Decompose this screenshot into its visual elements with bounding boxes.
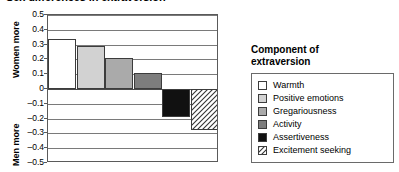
legend: Component of extraversion WarmthPositive…: [251, 44, 394, 163]
legend-item: Activity: [258, 118, 387, 131]
y-axis-tick-label: 0.4: [4, 25, 44, 34]
gridline: [48, 148, 217, 149]
legend-swatch-icon: [258, 107, 267, 116]
y-axis: 0.50.40.30.20.10–0.1–0.2–0.3–0.4–0.5: [0, 14, 44, 162]
legend-swatch-icon: [258, 94, 267, 103]
bar: [48, 39, 76, 89]
y-axis-tick-label: 0.1: [4, 69, 44, 78]
legend-item: Excitement seeking: [258, 144, 387, 157]
y-axis-tick-mark: [44, 162, 47, 163]
legend-item: Warmth: [258, 79, 387, 92]
bar: [105, 58, 133, 89]
legend-item: Assertiveness: [258, 131, 387, 144]
legend-item-label: Activity: [273, 120, 302, 129]
legend-item-label: Positive emotions: [273, 94, 344, 103]
y-axis-tick-label: 0.3: [4, 40, 44, 49]
legend-item-label: Assertiveness: [273, 133, 329, 142]
legend-item: Positive emotions: [258, 92, 387, 105]
legend-title-line1: Component of: [251, 44, 394, 56]
gridline: [48, 133, 217, 134]
bar: [134, 73, 162, 89]
bar: [77, 46, 105, 89]
legend-item-label: Warmth: [273, 81, 304, 90]
legend-swatch-icon: [258, 133, 267, 142]
legend-item-label: Gregariousness: [273, 107, 337, 116]
y-axis-tick-label: –0.3: [4, 128, 44, 137]
legend-item-label: Excitement seeking: [273, 146, 351, 155]
y-axis-tick-label: 0.5: [4, 10, 44, 19]
y-axis-tick-label: 0: [4, 84, 44, 93]
gridline: [48, 15, 217, 16]
y-axis-tick-label: –0.5: [4, 158, 44, 167]
legend-title: Component of extraversion: [251, 44, 394, 68]
y-axis-tick-label: –0.2: [4, 114, 44, 123]
gridline: [48, 30, 217, 31]
legend-title-line2: extraversion: [251, 56, 394, 68]
legend-swatch-icon: [258, 146, 267, 155]
y-axis-tick-label: 0.2: [4, 54, 44, 63]
plot-area: [47, 14, 218, 162]
y-axis-tick-label: –0.1: [4, 99, 44, 108]
bar: [162, 89, 190, 117]
bar: [191, 89, 218, 130]
legend-swatch-icon: [258, 81, 267, 90]
legend-box: WarmthPositive emotionsGregariousnessAct…: [251, 73, 394, 163]
y-axis-tick-label: –0.4: [4, 143, 44, 152]
legend-item: Gregariousness: [258, 105, 387, 118]
legend-swatch-icon: [258, 120, 267, 129]
page-title: Sex differences in extraversion: [6, 0, 166, 3]
